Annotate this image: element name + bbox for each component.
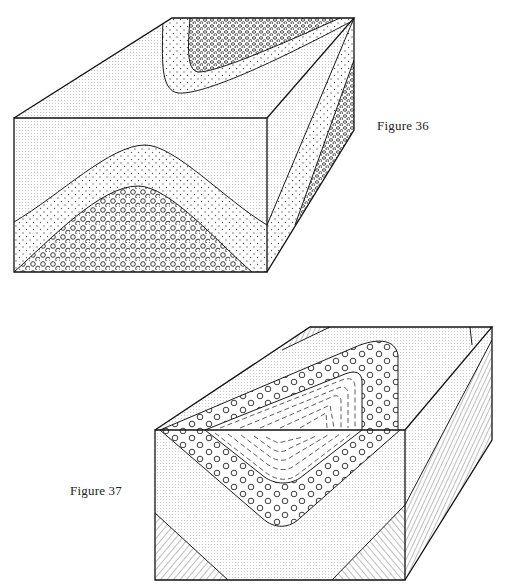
front-face bbox=[14, 118, 267, 272]
figure-37: Figure 37 bbox=[0, 293, 505, 588]
figure-36-block-diagram bbox=[0, 0, 505, 293]
figure-37-caption: Figure 37 bbox=[70, 483, 122, 499]
front-face bbox=[155, 430, 405, 580]
figure-37-block-diagram bbox=[0, 293, 505, 588]
figure-36-caption: Figure 36 bbox=[377, 118, 429, 134]
figure-36: Figure 36 bbox=[0, 0, 505, 293]
